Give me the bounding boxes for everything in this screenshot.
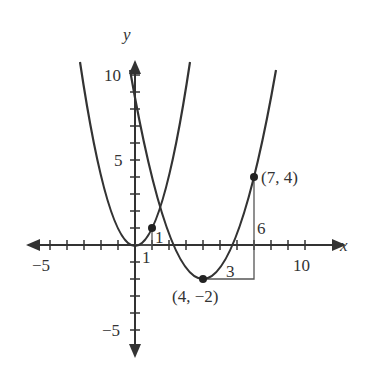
vertex-label: (4, −2) <box>172 287 218 306</box>
y-axis-label: y <box>121 25 131 44</box>
run-label-3: 3 <box>226 262 235 281</box>
y-tick-label-5: 5 <box>114 151 123 170</box>
point-7-4 <box>250 173 258 181</box>
y-tick-label-neg5: −5 <box>102 321 120 340</box>
y-axis-down-arrow-icon <box>129 344 141 358</box>
x-tick-label-neg5: −5 <box>32 256 50 275</box>
x-axis-label: x <box>339 236 348 255</box>
y-tick-label-10: 10 <box>104 66 121 85</box>
x-tick-label-10: 10 <box>293 256 310 275</box>
chart-canvas: y x −5 10 10 5 −5 1 1 3 6 (4, −2) (7, 4) <box>0 0 366 378</box>
rise-label-1: 1 <box>155 228 164 247</box>
point-vertex <box>199 275 207 283</box>
point-7-4-label: (7, 4) <box>261 168 298 187</box>
x-axis-left-arrow-icon <box>26 239 40 251</box>
chart: y x −5 10 10 5 −5 1 1 3 6 (4, −2) (7, 4) <box>0 0 366 378</box>
run-label-1: 1 <box>142 248 151 267</box>
rise-label-6: 6 <box>257 219 266 238</box>
